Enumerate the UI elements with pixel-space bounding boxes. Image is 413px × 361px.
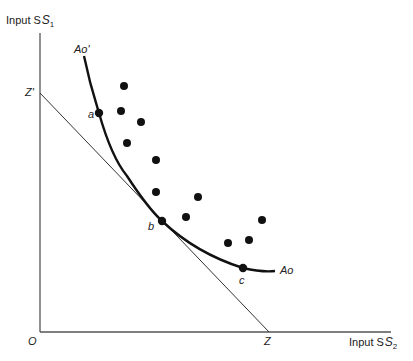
y-axis-label: Input S S1	[6, 14, 54, 29]
observation-dot	[120, 82, 128, 90]
efficient-points	[95, 109, 247, 272]
observation-dot	[258, 216, 266, 224]
observation-dot	[182, 213, 190, 221]
ao-prime-label: Ao'	[74, 44, 90, 55]
point-b-label: b	[148, 221, 154, 232]
origin-label: O	[28, 336, 37, 347]
observation-dot	[224, 239, 232, 247]
point-a-label: a	[88, 109, 94, 120]
point-b-dot	[158, 217, 166, 225]
observation-dot	[152, 188, 160, 196]
observation-points	[117, 82, 266, 247]
observation-dot	[123, 139, 131, 147]
observation-dot	[152, 156, 160, 164]
observation-dot	[137, 118, 145, 126]
diagram-canvas	[0, 0, 413, 361]
observation-dot	[194, 193, 202, 201]
observation-dot	[245, 236, 253, 244]
x-axis-label: Input S S2	[349, 336, 397, 351]
point-a-dot	[95, 109, 103, 117]
point-c-dot	[239, 264, 247, 272]
z-label: Z	[264, 336, 271, 347]
observation-dot	[117, 107, 125, 115]
ao-label: Ao	[280, 265, 293, 276]
z-prime-label: Z'	[25, 87, 34, 98]
point-c-label: c	[239, 275, 245, 286]
